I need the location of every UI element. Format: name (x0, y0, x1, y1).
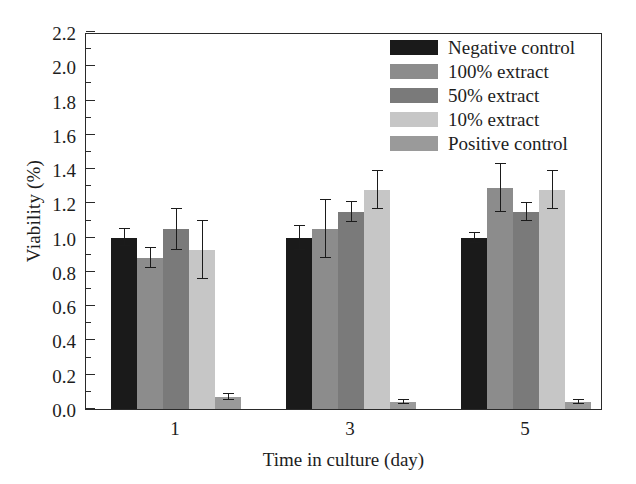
error-bar-cap-bottom (495, 211, 506, 212)
error-bar-cap-bottom (171, 249, 182, 250)
y-tick-label: 0.4 (16, 332, 76, 351)
error-bar-cap-bottom (547, 208, 558, 209)
y-tick-minor (86, 185, 91, 186)
bar (111, 238, 137, 409)
x-tick-label: 5 (495, 418, 555, 440)
error-bar-cap-top (346, 201, 357, 202)
legend-label: Positive control (448, 134, 568, 153)
error-bar (552, 171, 553, 209)
error-bar-cap-bottom (197, 278, 208, 279)
error-bar-cap-top (119, 228, 130, 229)
y-tick-minor (86, 357, 91, 358)
x-axis-title: Time in culture (day) (85, 449, 602, 471)
legend-label: 10% extract (448, 110, 539, 129)
legend: Negative control100% extract50% extract1… (390, 37, 575, 154)
legend-label: 100% extract (448, 62, 549, 81)
error-bar-cap-bottom (372, 208, 383, 209)
y-tick-major (86, 271, 95, 272)
y-tick-label: 1.0 (16, 229, 76, 248)
y-tick-minor (86, 48, 91, 49)
y-tick-label: 0.2 (16, 366, 76, 385)
error-bar-cap-bottom (320, 257, 331, 258)
error-bar (377, 171, 378, 209)
y-tick-major (86, 31, 95, 32)
y-tick-label: 0.6 (16, 298, 76, 317)
error-bar-cap-top (398, 399, 409, 400)
y-tick-label: 1.8 (16, 92, 76, 111)
bar (163, 229, 189, 409)
error-bar-cap-bottom (573, 403, 584, 404)
error-bar-cap-top (495, 163, 506, 164)
error-bar-cap-top (573, 399, 584, 400)
legend-item: 50% extract (390, 85, 575, 106)
error-bar (176, 209, 177, 250)
bar (513, 212, 539, 409)
error-bar-cap-top (521, 202, 532, 203)
bar (487, 188, 513, 409)
bar (137, 258, 163, 409)
legend-swatch-icon (390, 136, 438, 151)
y-tick-major (86, 168, 95, 169)
y-tick-minor (86, 151, 91, 152)
error-bar-cap-top (223, 393, 234, 394)
error-bar-cap-top (197, 220, 208, 221)
y-tick-major (86, 202, 95, 203)
error-bar-cap-top (171, 208, 182, 209)
y-tick-label: 1.2 (16, 195, 76, 214)
y-tick-minor (86, 391, 91, 392)
y-tick-major (86, 305, 95, 306)
error-bar-cap-top (469, 232, 480, 233)
y-tick-major (86, 339, 95, 340)
y-tick-minor (86, 220, 91, 221)
error-bar-cap-top (547, 170, 558, 171)
error-bar-cap-top (320, 199, 331, 200)
y-tick-label: 2.2 (16, 24, 76, 43)
y-tick-minor (86, 82, 91, 83)
error-bar-cap-bottom (346, 221, 357, 222)
legend-label: 50% extract (448, 86, 539, 105)
y-tick-major (86, 374, 95, 375)
y-tick-major (86, 100, 95, 101)
y-tick-major (86, 134, 95, 135)
legend-swatch-icon (390, 40, 438, 55)
bar (539, 190, 565, 409)
y-tick-major (86, 237, 95, 238)
y-tick-minor (86, 322, 91, 323)
y-tick-label: 0.8 (16, 263, 76, 282)
error-bar-cap-bottom (145, 267, 156, 268)
y-tick-minor (86, 117, 91, 118)
legend-item: Negative control (390, 37, 575, 58)
y-tick-label: 1.6 (16, 126, 76, 145)
bar (364, 190, 390, 409)
y-tick-label: 2.0 (16, 58, 76, 77)
y-tick-label: 1.4 (16, 161, 76, 180)
error-bar-cap-bottom (521, 220, 532, 221)
y-tick-minor (86, 254, 91, 255)
y-tick-label: 0.0 (16, 401, 76, 420)
y-tick-major (86, 65, 95, 66)
legend-item: 10% extract (390, 109, 575, 130)
legend-item: Positive control (390, 133, 575, 154)
error-bar (526, 203, 527, 220)
y-tick-minor (86, 288, 91, 289)
error-bar (500, 164, 501, 212)
error-bar (299, 226, 300, 250)
bar (461, 238, 487, 409)
error-bar-cap-bottom (223, 399, 234, 400)
error-bar (202, 221, 203, 279)
legend-swatch-icon (390, 88, 438, 103)
legend-item: 100% extract (390, 61, 575, 82)
error-bar-cap-top (145, 247, 156, 248)
error-bar-cap-bottom (294, 249, 305, 250)
legend-swatch-icon (390, 64, 438, 79)
legend-swatch-icon (390, 112, 438, 127)
error-bar-cap-top (372, 170, 383, 171)
error-bar (124, 229, 125, 246)
y-tick-major (86, 408, 95, 409)
error-bar-cap-top (294, 225, 305, 226)
error-bar (150, 248, 151, 269)
error-bar-cap-bottom (398, 403, 409, 404)
error-bar (325, 200, 326, 258)
x-tick-label: 1 (145, 418, 205, 440)
error-bar-cap-bottom (469, 242, 480, 243)
